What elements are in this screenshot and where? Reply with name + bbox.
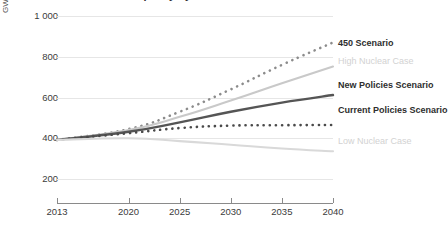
series-line	[57, 138, 333, 151]
series-label-high-nuclear-case: High Nuclear Case	[338, 57, 414, 66]
x-tick-mark	[57, 198, 58, 203]
series-label-new-policies-scenario: New Policies Scenario	[338, 81, 434, 90]
x-tick-mark	[282, 198, 283, 203]
x-axis-line	[57, 203, 333, 204]
x-tick-mark	[180, 198, 181, 203]
series-label-current-policies-scenario: Current Policies Scenario	[338, 106, 448, 115]
x-tick-mark	[129, 198, 130, 203]
series-line	[57, 95, 333, 140]
series-line	[57, 67, 333, 140]
x-tick-label: 2020	[107, 206, 151, 217]
x-tick-mark	[333, 198, 334, 203]
series-line	[57, 42, 333, 139]
x-tick-label: 2025	[158, 206, 202, 217]
x-tick-label: 2040	[311, 206, 355, 217]
x-tick-label: 2035	[260, 206, 304, 217]
series-label-450-scenario: 450 Scenario	[338, 39, 394, 48]
x-tick-label: 2030	[209, 206, 253, 217]
x-tick-label: 2013	[35, 206, 79, 217]
series-label-low-nuclear-case: Low Nuclear Case	[338, 137, 412, 146]
x-tick-mark	[231, 198, 232, 203]
